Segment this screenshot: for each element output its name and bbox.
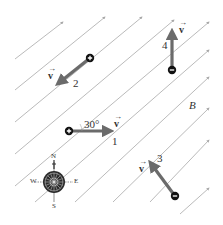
charge-4	[168, 66, 176, 74]
velocity-label-3: →v	[139, 164, 144, 174]
field-line	[15, 20, 174, 154]
field-line	[180, 188, 209, 214]
velocity-label-2: →v	[48, 71, 53, 81]
magnetic-field-diagram	[0, 0, 223, 225]
charge-label-4: 4	[162, 40, 168, 51]
field-line	[150, 140, 209, 202]
compass-rose-icon	[35, 160, 73, 202]
velocity-label-4: →v	[179, 25, 184, 35]
angle-label: 30°	[84, 119, 99, 130]
field-line	[15, 22, 63, 59]
field-line	[15, 17, 105, 90]
compass-east-label: E	[74, 178, 78, 185]
field-line	[15, 17, 142, 122]
charge-label-2: 2	[73, 78, 79, 89]
charge-3	[171, 192, 179, 200]
charge-label-3: 3	[157, 153, 163, 164]
velocity-label-1: →v	[114, 119, 119, 129]
field-line	[75, 77, 209, 202]
field-label: B	[189, 100, 196, 111]
compass-south-label: S	[52, 203, 56, 210]
charge-label-1: 1	[112, 136, 118, 147]
compass-north-label: N	[51, 153, 56, 160]
compass-west-label: W	[30, 178, 37, 185]
charge-2	[86, 54, 94, 62]
velocity-arrow-3	[152, 165, 175, 196]
charge-1	[65, 127, 73, 135]
